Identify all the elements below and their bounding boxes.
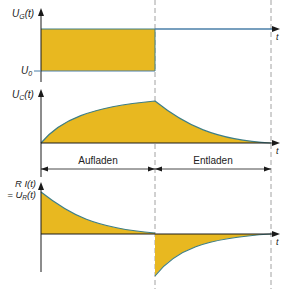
- source-voltage-y-label: UG(t): [12, 8, 34, 20]
- y-axis-arrow-icon: [38, 89, 44, 97]
- charging-phase-label: Aufladen: [78, 155, 117, 166]
- resistor-voltage-y-label: = UR(t): [7, 189, 36, 201]
- y-axis-arrow-icon: [38, 8, 44, 16]
- resistor-voltage-t-label: t: [276, 237, 279, 247]
- graph-resistor-voltage: R I(t) = UR(t) t: [7, 178, 280, 276]
- capacitor-voltage-t-label: t: [276, 146, 279, 156]
- discharging-phase-label: Entladen: [193, 155, 232, 166]
- resistor-current-label: R I(t): [15, 178, 36, 189]
- resistor-voltage-positive-area: [41, 192, 155, 234]
- y-axis-arrow-icon: [38, 182, 44, 190]
- dimension-arrow-icon: [155, 167, 162, 172]
- dimension-arrow-icon: [41, 167, 48, 172]
- dimension-arrow-icon: [264, 167, 271, 172]
- graph-source-voltage: UG(t) U0 t: [12, 8, 280, 82]
- graph-capacitor-voltage: UC(t) t Aufladen Entladen: [12, 89, 280, 177]
- capacitor-voltage-area: [41, 101, 271, 143]
- source-voltage-area: [41, 29, 155, 71]
- source-voltage-t-label: t: [276, 32, 279, 42]
- resistor-voltage-negative-area: [155, 234, 271, 276]
- dimension-arrow-icon: [148, 167, 155, 172]
- u0-level-label: U0: [21, 65, 32, 77]
- capacitor-voltage-y-label: UC(t): [12, 89, 34, 101]
- rc-circuit-diagram: UG(t) U0 t UC(t) t Aufladen Entladen R I…: [0, 0, 287, 289]
